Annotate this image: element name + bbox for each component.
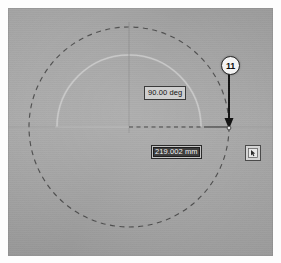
angle-dimension-label[interactable]: 90.00 deg <box>144 86 186 100</box>
select-cursor-button[interactable] <box>245 145 261 161</box>
sketch-viewport[interactable] <box>8 8 273 256</box>
callout-balloon-11: 11 <box>221 56 240 75</box>
screenshot-root: 90.00 deg 219.002 mm 11 <box>0 0 281 263</box>
dimension-endpoint[interactable] <box>227 126 231 130</box>
linear-dimension-field[interactable]: 219.002 mm <box>151 145 202 159</box>
linear-dimension-input[interactable]: 219.002 mm <box>153 147 200 157</box>
sketch-geometry <box>8 8 273 256</box>
select-cursor-icon <box>248 148 258 158</box>
